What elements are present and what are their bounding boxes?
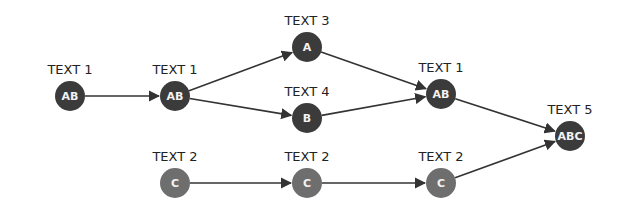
- node-n4: TEXT 4B: [283, 84, 329, 133]
- node-n5: TEXT 2C: [151, 149, 197, 198]
- node-text: AB: [433, 88, 450, 101]
- node-n2: TEXT 1AB: [151, 62, 197, 111]
- node-text: B: [303, 112, 311, 125]
- node-label: TEXT 2: [283, 149, 329, 164]
- node-n1: TEXT 1AB: [46, 62, 92, 111]
- node-n8: TEXT 2C: [417, 149, 463, 198]
- node-label: TEXT 2: [417, 149, 463, 164]
- node-label: TEXT 1: [151, 62, 197, 77]
- node-label: TEXT 5: [546, 102, 592, 117]
- node-n3: TEXT 3A: [283, 13, 329, 62]
- node-text: A: [303, 41, 312, 54]
- edge-arrow-n7-n9: [455, 99, 555, 131]
- edge-arrow-n2-n3: [189, 53, 292, 91]
- edge-arrow-n4-n7: [322, 97, 425, 116]
- nodes-layer: TEXT 1ABTEXT 1ABTEXT 3ATEXT 4BTEXT 2CTEX…: [46, 13, 592, 198]
- node-text: ABC: [558, 130, 583, 143]
- node-text: C: [303, 177, 311, 190]
- node-n9: TEXT 5ABC: [546, 102, 592, 151]
- node-text: AB: [62, 90, 79, 103]
- node-n7: TEXT 1AB: [417, 60, 463, 109]
- node-text: C: [437, 177, 445, 190]
- node-n6: TEXT 2C: [283, 149, 329, 198]
- flow-diagram: TEXT 1ABTEXT 1ABTEXT 3ATEXT 4BTEXT 2CTEX…: [0, 0, 620, 216]
- node-text: C: [171, 177, 179, 190]
- edge-arrow-n2-n4: [190, 98, 291, 115]
- node-text: AB: [167, 90, 184, 103]
- node-label: TEXT 1: [417, 60, 463, 75]
- node-label: TEXT 3: [283, 13, 329, 28]
- edge-arrow-n3-n7: [321, 52, 426, 89]
- node-label: TEXT 2: [151, 149, 197, 164]
- node-label: TEXT 1: [46, 62, 92, 77]
- node-label: TEXT 4: [283, 84, 329, 99]
- edge-arrow-n8-n9: [455, 141, 555, 177]
